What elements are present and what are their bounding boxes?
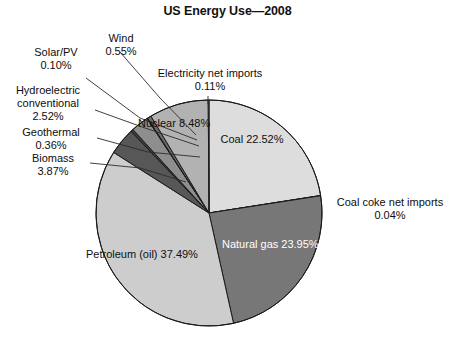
label-solar-pv: Solar/PV 0.10% [22, 46, 90, 72]
label-coal-coke-net-imports-name: Coal coke net imports [327, 196, 453, 209]
label-wind: Wind 0.55% [90, 32, 152, 58]
pie-slice-group [96, 100, 322, 326]
label-hydroelectric-value: 2.52% [2, 110, 94, 123]
label-wind-name: Wind [90, 32, 152, 45]
pie-slice-coal[interactable] [209, 100, 321, 213]
slice-label-coal-name: Coal [221, 133, 244, 145]
label-hydroelectric: Hydroelectric conventional 2.52% [2, 84, 94, 123]
label-geothermal: Geothermal 0.36% [10, 126, 92, 152]
label-wind-value: 0.55% [90, 45, 152, 58]
slice-label-nuclear-value: 8.48% [179, 117, 210, 129]
slice-label-natural-gas-value: 23.95% [281, 238, 318, 250]
slice-label-natural-gas: Natural gas 23.95% [222, 238, 312, 252]
slice-label-petroleum-name: Petroleum (oil) [86, 248, 158, 260]
label-solar-pv-name: Solar/PV [22, 46, 90, 59]
slice-label-coal-value: 22.52% [246, 133, 283, 145]
slice-label-coal: Coal 22.52% [216, 133, 288, 147]
label-electricity-net-imports-value: 0.11% [148, 80, 272, 93]
label-hydroelectric-line1: Hydroelectric [2, 84, 94, 97]
label-coal-coke-net-imports-value: 0.04% [327, 209, 453, 222]
chart-canvas: US Energy Use—2008 Wind 0.55% Solar/PV 0… [0, 0, 455, 356]
label-electricity-net-imports: Electricity net imports 0.11% [148, 67, 272, 93]
label-electricity-net-imports-name: Electricity net imports [148, 67, 272, 80]
slice-label-petroleum-value: 37.49% [161, 248, 198, 260]
slice-label-nuclear: Nuclear 8.48% [138, 117, 206, 131]
slice-label-petroleum: Petroleum (oil) 37.49% [86, 248, 190, 262]
slice-label-natural-gas-name: Natural gas [222, 238, 278, 250]
label-geothermal-name: Geothermal [10, 126, 92, 139]
label-hydroelectric-line2: conventional [2, 97, 94, 110]
label-coal-coke-net-imports: Coal coke net imports 0.04% [327, 196, 453, 222]
label-biomass-value: 3.87% [20, 165, 86, 178]
label-geothermal-value: 0.36% [10, 139, 92, 152]
label-biomass-name: Biomass [20, 152, 86, 165]
label-biomass: Biomass 3.87% [20, 152, 86, 178]
label-solar-pv-value: 0.10% [22, 59, 90, 72]
slice-label-nuclear-name: Nuclear [138, 117, 176, 129]
